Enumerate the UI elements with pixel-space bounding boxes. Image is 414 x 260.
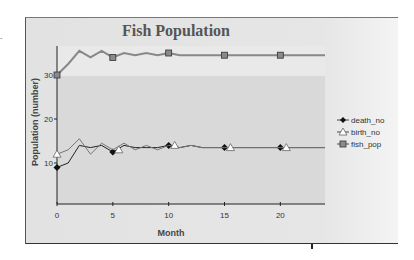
y-tick-label: 30 — [44, 71, 53, 80]
x-tick-label: 15 — [220, 211, 229, 220]
y-tick-label: 10 — [44, 159, 53, 168]
mouse-cursor-icon — [311, 244, 313, 249]
marker-square — [166, 50, 172, 56]
marker-square — [54, 72, 60, 78]
legend-square-icon — [340, 141, 346, 147]
legend-label-birth_no: birth_no — [351, 128, 380, 137]
marker-square — [277, 52, 283, 58]
x-tick-label: 20 — [276, 211, 285, 220]
chart-svg: 05101520102030MonthPopulation (number)de… — [0, 0, 414, 260]
y-axis-label: Population (number) — [30, 78, 40, 166]
x-axis-label: Month — [158, 228, 185, 238]
y-tick-label: 20 — [44, 115, 53, 124]
legend-label-fish_pop: fish_pop — [351, 140, 382, 149]
legend-label-death_no: death_no — [351, 116, 385, 125]
legend-diamond-icon — [340, 117, 346, 123]
x-tick-label: 5 — [111, 211, 116, 220]
marker-square — [110, 54, 116, 60]
plot-area-highlight — [57, 46, 325, 76]
x-tick-label: 0 — [55, 211, 60, 220]
x-tick-label: 10 — [164, 211, 173, 220]
marker-square — [222, 52, 228, 58]
